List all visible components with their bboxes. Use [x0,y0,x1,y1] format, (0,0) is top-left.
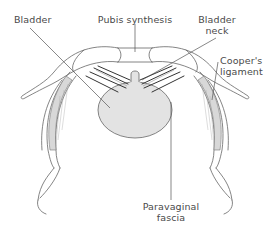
pubic-bone-left [21,47,121,99]
label-pubis-synthesis: Pubis synthesis [94,14,176,25]
label-bladder: Bladder [14,14,52,25]
pelvic-anatomy-diagram: Bladder Pubis synthesis Bladder neck Coo… [0,0,270,235]
label-coopers-ligament: Cooper's ligament [220,55,263,77]
leader-bladder-neck [142,38,216,80]
label-paravaginal-fascia: Paravaginal fascia [140,201,202,223]
bladder-body [98,82,172,138]
bladder-neck [131,71,139,82]
label-bladder-neck: Bladder neck [196,14,238,36]
leader-bladder [30,28,110,108]
